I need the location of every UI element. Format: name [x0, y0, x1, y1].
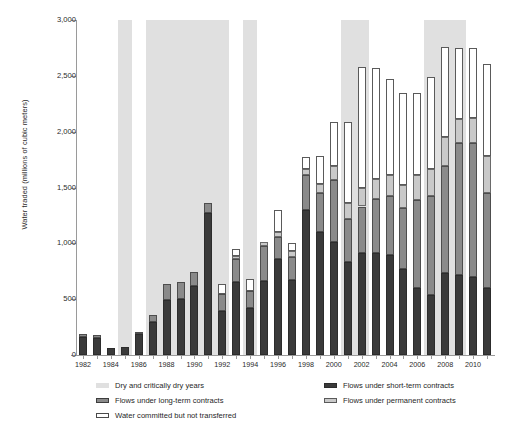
- bar-segment-long: [413, 200, 421, 288]
- y-tick-label: 2,500: [32, 71, 76, 80]
- bar-1982[interactable]: [79, 334, 87, 355]
- bar-1994[interactable]: [246, 279, 254, 355]
- legend-swatch-icon: [96, 413, 109, 419]
- legend-swatch-icon: [96, 383, 109, 389]
- bar-1992[interactable]: [218, 284, 226, 355]
- bar-segment-perm: [302, 169, 310, 176]
- legend-swatch-icon: [96, 398, 109, 404]
- bar-1986[interactable]: [135, 332, 143, 355]
- bar-segment-short: [190, 286, 198, 355]
- bar-1987[interactable]: [149, 315, 157, 355]
- bar-segment-perm: [344, 203, 352, 219]
- bar-2006[interactable]: [413, 93, 421, 355]
- bar-1998[interactable]: [302, 157, 310, 355]
- x-tick: [208, 355, 209, 359]
- bar-2003[interactable]: [372, 68, 380, 355]
- bar-segment-comm: [441, 47, 449, 137]
- x-tick: [278, 355, 279, 359]
- y-tick-label: 0: [32, 350, 76, 359]
- x-tick-label: 2010: [458, 360, 488, 369]
- bar-1997[interactable]: [288, 243, 296, 355]
- legend-item[interactable]: Flows under long-term contracts: [96, 396, 223, 405]
- bar-2010[interactable]: [469, 48, 477, 355]
- bar-segment-short: [274, 259, 282, 355]
- x-tick-label: 1996: [263, 360, 293, 369]
- legend-item[interactable]: Flows under short-term contracts: [324, 381, 454, 390]
- bar-segment-short: [358, 253, 366, 355]
- bar-segment-short: [232, 282, 240, 355]
- bar-segment-short: [386, 255, 394, 356]
- bar-segment-short: [469, 277, 477, 355]
- bar-segment-perm: [455, 119, 463, 142]
- bar-segment-long: [358, 207, 366, 254]
- x-tick-label: 1992: [207, 360, 237, 369]
- bar-segment-long: [399, 208, 407, 269]
- bar-1983[interactable]: [93, 335, 101, 355]
- x-tick: [348, 355, 349, 359]
- bar-1984[interactable]: [107, 348, 115, 355]
- bar-1989[interactable]: [177, 282, 185, 355]
- bar-segment-short: [218, 311, 226, 355]
- x-tick-label: 2008: [430, 360, 460, 369]
- bar-segment-long: [135, 332, 143, 335]
- bar-segment-comm: [246, 279, 254, 291]
- x-tick: [222, 355, 223, 359]
- x-tick: [264, 355, 265, 359]
- legend-item[interactable]: Dry and critically dry years: [96, 381, 204, 390]
- bar-1991[interactable]: [204, 203, 212, 355]
- legend-item[interactable]: Water committed but not transferred: [96, 411, 236, 420]
- x-tick: [167, 355, 168, 359]
- x-tick: [417, 355, 418, 359]
- bar-segment-comm: [316, 156, 324, 184]
- bar-segment-long: [372, 199, 380, 254]
- bar-1999[interactable]: [316, 156, 324, 355]
- bar-1990[interactable]: [190, 272, 198, 355]
- y-tick-label: 1,500: [32, 183, 76, 192]
- bar-segment-perm: [441, 137, 449, 166]
- x-tick: [362, 355, 363, 359]
- bar-2011[interactable]: [483, 64, 491, 355]
- bar-2000[interactable]: [330, 122, 338, 355]
- bar-2004[interactable]: [386, 79, 394, 355]
- bar-2008[interactable]: [441, 47, 449, 355]
- bar-segment-long: [204, 203, 212, 213]
- legend-label: Flows under short-term contracts: [343, 381, 454, 390]
- bar-segment-long: [218, 294, 226, 311]
- bar-1996[interactable]: [274, 210, 282, 355]
- x-tick: [334, 355, 335, 359]
- legend-swatch-icon: [324, 383, 337, 389]
- bar-segment-long: [302, 175, 310, 210]
- bar-segment-comm: [399, 93, 407, 186]
- bar-segment-comm: [413, 93, 421, 176]
- bar-segment-short: [121, 347, 129, 355]
- bar-2007[interactable]: [427, 77, 435, 355]
- bar-2009[interactable]: [455, 48, 463, 355]
- x-tick: [403, 355, 404, 359]
- bar-2005[interactable]: [399, 93, 407, 355]
- bar-2002[interactable]: [358, 67, 366, 355]
- bar-segment-long: [288, 257, 296, 280]
- bar-1993[interactable]: [232, 249, 240, 355]
- x-tick: [431, 355, 432, 359]
- legend-swatch-icon: [324, 398, 337, 404]
- x-tick: [97, 355, 98, 359]
- legend-label: Dry and critically dry years: [115, 381, 204, 390]
- y-axis-ticks: 05001,0001,5002,0002,5003,000: [0, 0, 76, 380]
- bar-2001[interactable]: [344, 122, 352, 355]
- bar-1985[interactable]: [121, 347, 129, 355]
- x-tick: [250, 355, 251, 359]
- bar-segment-perm: [274, 232, 282, 236]
- bar-segment-comm: [330, 122, 338, 167]
- bar-segment-comm: [427, 77, 435, 169]
- bar-segment-short: [413, 288, 421, 355]
- bar-1988[interactable]: [163, 284, 171, 355]
- bar-segment-short: [135, 334, 143, 355]
- legend-item[interactable]: Flows under permanent contracts: [324, 396, 456, 405]
- x-tick: [390, 355, 391, 359]
- y-tick-label: 500: [32, 294, 76, 303]
- x-tick-label: 2000: [319, 360, 349, 369]
- bar-segment-long: [149, 315, 157, 321]
- x-tick: [376, 355, 377, 359]
- bar-1995[interactable]: [260, 242, 268, 355]
- bar-segment-short: [149, 322, 157, 356]
